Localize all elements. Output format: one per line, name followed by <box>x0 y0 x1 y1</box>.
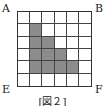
grid-cell <box>18 61 30 73</box>
grid-cell <box>79 24 91 36</box>
grid-cell <box>18 49 30 61</box>
grid-cell <box>30 12 42 24</box>
grid-cell <box>18 24 30 36</box>
grid-cell <box>67 12 79 24</box>
grid-cell-shaded <box>42 61 54 73</box>
grid-cell <box>42 12 54 24</box>
corner-label-b: B <box>95 3 103 14</box>
grid-cell-shaded <box>30 49 42 61</box>
grid-cell <box>79 61 91 73</box>
grid-cell <box>55 12 67 24</box>
grid-cell-shaded <box>30 24 42 36</box>
grid-cell <box>55 24 67 36</box>
grid-cell-shaded <box>55 61 67 73</box>
grid-cell <box>18 37 30 49</box>
grid-cell <box>67 74 79 86</box>
grid-cell-shaded <box>42 49 54 61</box>
grid-cell <box>67 49 79 61</box>
grid-cell <box>67 24 79 36</box>
grid-cell <box>67 37 79 49</box>
grid-cell <box>30 74 42 86</box>
corner-label-a: A <box>2 3 10 14</box>
grid-cell-shaded <box>67 61 79 73</box>
grid-cell-shaded <box>55 49 67 61</box>
grid-cell-shaded <box>42 37 54 49</box>
square-grid <box>17 11 92 87</box>
grid-cell <box>18 12 30 24</box>
grid-cell <box>79 74 91 86</box>
grid-cell-shaded <box>30 37 42 49</box>
figure-caption: [図２] <box>0 93 105 106</box>
grid-cell <box>42 24 54 36</box>
grid-cell-shaded <box>30 61 42 73</box>
grid-cell <box>55 37 67 49</box>
grid-cell <box>55 74 67 86</box>
grid-cell <box>42 74 54 86</box>
grid-cell <box>18 74 30 86</box>
grid-cell <box>79 12 91 24</box>
grid-cell <box>79 49 91 61</box>
grid-cell <box>79 37 91 49</box>
